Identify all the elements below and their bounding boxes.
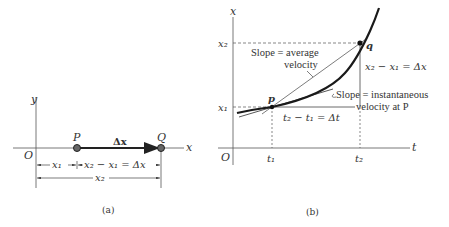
- point-q-label: q: [366, 40, 373, 51]
- panel-a-caption: (a): [102, 205, 114, 215]
- inst-slope-label-line1: Slope = instantaneous: [336, 89, 428, 100]
- x-axis-label: x: [230, 5, 237, 18]
- tick-t1: t₁: [267, 153, 275, 164]
- point-p-label: p: [268, 93, 275, 104]
- motion-diagram: y x O Δx P Q x₁ x₂ − x₁ = Δx x₂ (a) x t …: [0, 0, 449, 227]
- inst-slope-label-line2: velocity at P: [356, 101, 409, 112]
- avg-slope-label-line1: Slope = average: [251, 47, 319, 58]
- avg-slope-pointer: [307, 71, 313, 77]
- t-axis-label: t: [412, 141, 417, 154]
- delta-x-label: x₂ − x₁ = Δx: [365, 61, 427, 72]
- avg-slope-label-line2: velocity: [284, 59, 319, 70]
- displacement-label: Δx: [113, 136, 128, 147]
- dim-x1-label: x₁: [52, 159, 62, 170]
- point-q: [158, 145, 165, 152]
- panel-b-caption: (b): [306, 207, 319, 217]
- origin-label: O: [24, 149, 33, 162]
- point-q: [357, 40, 362, 45]
- x-axis-label: x: [186, 141, 193, 154]
- tick-x2: x₂: [218, 38, 228, 49]
- tick-t2: t₂: [355, 153, 363, 164]
- point-q-label: Q: [157, 131, 166, 144]
- delta-t-label: t₂ − t₁ = Δt: [283, 112, 341, 123]
- y-axis-label: y: [30, 93, 38, 106]
- tick-x1: x₁: [218, 102, 228, 113]
- point-p: [270, 105, 274, 109]
- origin-label: O: [221, 151, 230, 164]
- point-p: [74, 145, 81, 152]
- dim-diff-label: x₂ − x₁ = Δx: [84, 159, 146, 170]
- dim-x2-label: x₂: [95, 172, 105, 183]
- panel-b: x t O x₂ x₁ t₁ t₂ p q Slope = average ve…: [218, 5, 428, 217]
- panel-a: y x O Δx P Q x₁ x₂ − x₁ = Δx x₂ (a): [13, 93, 193, 215]
- point-p-label: P: [72, 131, 81, 144]
